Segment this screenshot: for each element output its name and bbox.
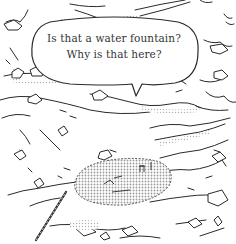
speech-line-2: Why is that here?: [30, 46, 198, 62]
speech-line-1: Is that a water fountain?: [30, 30, 198, 46]
comic-panel: Is that a water fountain? Why is that he…: [0, 0, 236, 244]
fountain-pool: [75, 158, 172, 205]
speech-bubble-text: Is that a water fountain? Why is that he…: [30, 30, 198, 62]
